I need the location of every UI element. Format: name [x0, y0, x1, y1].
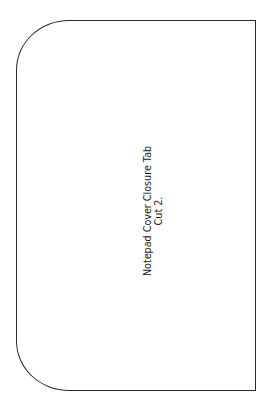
cut-label-title: Notepad Cover Closure Tab — [142, 146, 153, 276]
cut-label-quantity: Cut 2. — [153, 146, 164, 276]
cut-label: Notepad Cover Closure Tab Cut 2. — [142, 146, 164, 276]
closure-tab-cut-outline — [16, 20, 256, 391]
